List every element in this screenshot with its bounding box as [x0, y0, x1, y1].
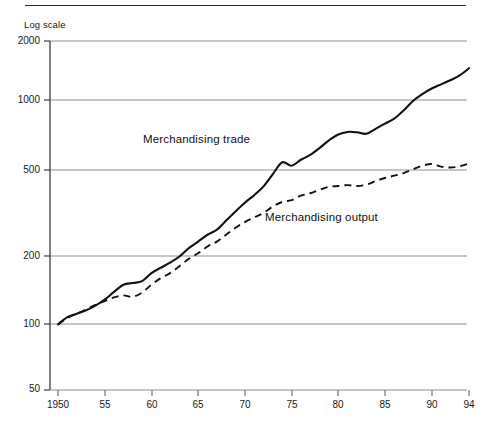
- series-line-merchandising-trade: [58, 68, 469, 324]
- xtick-label-1965: 65: [178, 399, 218, 410]
- series-annotation-merchandising-trade: Merchandising trade: [143, 133, 250, 145]
- chart-plot-area: [0, 0, 491, 430]
- ytick-label-1000: 1000: [6, 94, 40, 105]
- xtick-label-1960: 60: [132, 399, 172, 410]
- ytick-label-50: 50: [6, 383, 40, 394]
- xtick-label-1970: 70: [225, 399, 265, 410]
- chart-figure: Log scale: [0, 0, 491, 430]
- x-axis-ticks: [58, 390, 469, 396]
- xtick-label-1985: 85: [365, 399, 405, 410]
- ytick-label-100: 100: [6, 318, 40, 329]
- ytick-label-2000: 2000: [6, 35, 40, 46]
- series-annotation-merchandising-output: Merchandising output: [265, 211, 378, 223]
- y-axis-ticks: [44, 41, 50, 390]
- xtick-label-1950: 1950: [38, 399, 78, 410]
- xtick-label-1990: 90: [412, 399, 452, 410]
- ytick-label-200: 200: [6, 250, 40, 261]
- xtick-label-1975: 75: [272, 399, 312, 410]
- gridlines: [50, 41, 467, 324]
- xtick-label-1955: 55: [85, 399, 125, 410]
- ytick-label-500: 500: [6, 164, 40, 175]
- xtick-label-1980: 80: [318, 399, 358, 410]
- xtick-label-1994: 94: [449, 399, 489, 410]
